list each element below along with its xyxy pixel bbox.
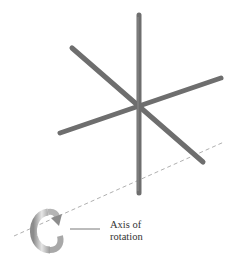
rotation-arrow-icon bbox=[34, 212, 62, 250]
axis-label-line2: rotation bbox=[110, 231, 143, 243]
rods bbox=[60, 15, 221, 193]
rotation-diagram: Axis of rotation bbox=[0, 0, 240, 264]
axis-label: Axis of rotation bbox=[110, 219, 143, 243]
axis-label-line1: Axis of bbox=[110, 219, 143, 231]
